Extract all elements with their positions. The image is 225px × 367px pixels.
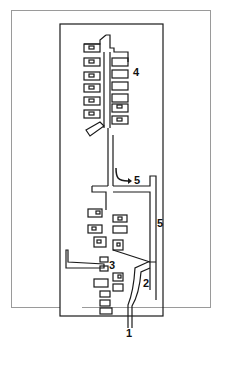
plan-boundary	[60, 24, 163, 316]
label-2: 2	[143, 277, 149, 289]
label-5-vertical: 5	[157, 217, 163, 229]
label-5-arrow: 5	[134, 174, 140, 186]
arrow-head-icon	[128, 178, 132, 184]
label-3: 3	[109, 259, 115, 271]
label-4: 4	[133, 66, 140, 78]
curved-arrow	[116, 168, 128, 181]
label-1: 1	[126, 327, 132, 339]
floor-plan-diagram: 4 5 5 3 2 1	[0, 0, 225, 367]
upper-block-area-4	[84, 35, 128, 136]
